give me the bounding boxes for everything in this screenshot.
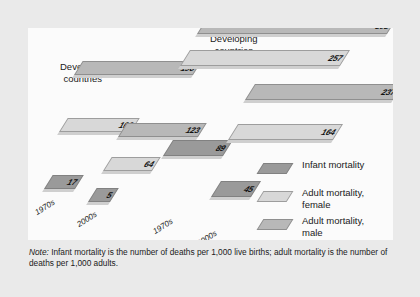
bar-face <box>211 181 261 197</box>
bar-developing-1970s-infant: 89 <box>163 140 233 156</box>
plot-area: Developed countries Developing countries… <box>28 28 393 240</box>
bar-shadow <box>226 140 333 143</box>
bar-developed-2000s-male: 123 <box>118 123 207 137</box>
chart-note: Note: Infant mortality is the number of … <box>29 247 393 269</box>
bar-shadow <box>243 100 393 103</box>
legend-label: Adult mortality, male <box>302 215 364 238</box>
note-text: Infant mortality is the number of deaths… <box>29 247 387 268</box>
period-label-developed-2000s: 2000s <box>75 210 98 229</box>
bar-developing-2000s-infant: 45 <box>211 181 261 197</box>
legend-swatch-male-icon <box>257 219 294 230</box>
legend-item-infant-mortality: Infant mortality <box>260 160 390 185</box>
bar-shadow <box>195 34 387 37</box>
legend-label: Infant mortality <box>302 159 364 171</box>
note-label: Note: <box>29 247 49 257</box>
bar-shadow <box>42 189 75 192</box>
bar-developing-1970s-female: 257 <box>180 50 350 66</box>
legend: Infant mortality Adult mortality, female… <box>260 160 390 240</box>
bar-shadow <box>161 156 223 159</box>
period-label-developed-1970s: 1970s <box>33 198 56 217</box>
bar-developed-2000s-female: 64 <box>103 157 161 171</box>
plot-panel: Developed countries Developing countries… <box>28 28 393 240</box>
legend-swatch-infant-icon <box>257 163 294 174</box>
bar-face <box>180 50 350 66</box>
bar-shadow <box>86 202 110 205</box>
bar-face <box>197 28 393 34</box>
bar-face <box>245 84 393 100</box>
legend-item-adult-mortality-male: Adult mortality, male <box>260 216 390 240</box>
legend-item-adult-mortality-female: Adult mortality, female <box>260 188 390 213</box>
bar-shadow <box>178 66 340 69</box>
bar-developing-2000s-male: 237 <box>245 84 393 100</box>
bar-shadow <box>72 75 193 78</box>
bar-developed-1970s-infant: 17 <box>44 175 84 189</box>
period-label-developing-2000s: 2000s <box>195 229 218 240</box>
bar-shadow <box>209 197 251 200</box>
bar-developing-1970s-male: 308 <box>197 28 393 34</box>
legend-swatch-female-icon <box>257 191 294 202</box>
legend-label: Adult mortality, female <box>302 187 364 210</box>
bar-developed-2000s-infant: 5 <box>88 188 119 202</box>
period-label-developing-1970s: 1970s <box>151 217 174 236</box>
bar-shadow <box>101 171 152 174</box>
figure: Developed countries Developing countries… <box>0 0 420 297</box>
bar-developing-2000s-female: 164 <box>228 124 343 140</box>
